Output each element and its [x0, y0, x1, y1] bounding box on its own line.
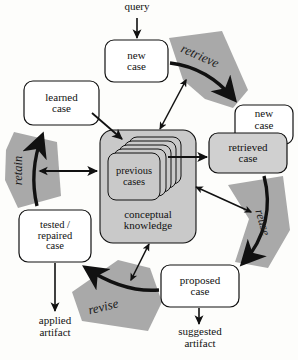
query-label: query — [112, 1, 162, 13]
previous-cases-label: previouscases — [108, 153, 160, 200]
conceptual-knowledge-label: conceptualknowledge — [100, 200, 196, 240]
retrieve-wedge — [169, 31, 248, 108]
proposed-case-label: proposedcase — [161, 265, 239, 307]
new-case-right-label: newcase — [235, 103, 293, 136]
retrieve-knowledge-arrow — [160, 80, 186, 129]
suggested-artifact-label: suggested artifact — [164, 326, 236, 349]
learned-case-label: learnedcase — [24, 81, 99, 125]
new-case-top-label: newcase — [105, 40, 168, 82]
cbr-cycle-diagram: query applied artifact suggested artifac… — [0, 0, 298, 360]
applied-artifact-label: applied artifact — [22, 315, 88, 338]
retrieved-case-label: retrievedcase — [209, 133, 287, 173]
retain-step-label: retain — [11, 156, 26, 185]
tested-repaired-case-label: tested /repairedcase — [19, 210, 91, 262]
